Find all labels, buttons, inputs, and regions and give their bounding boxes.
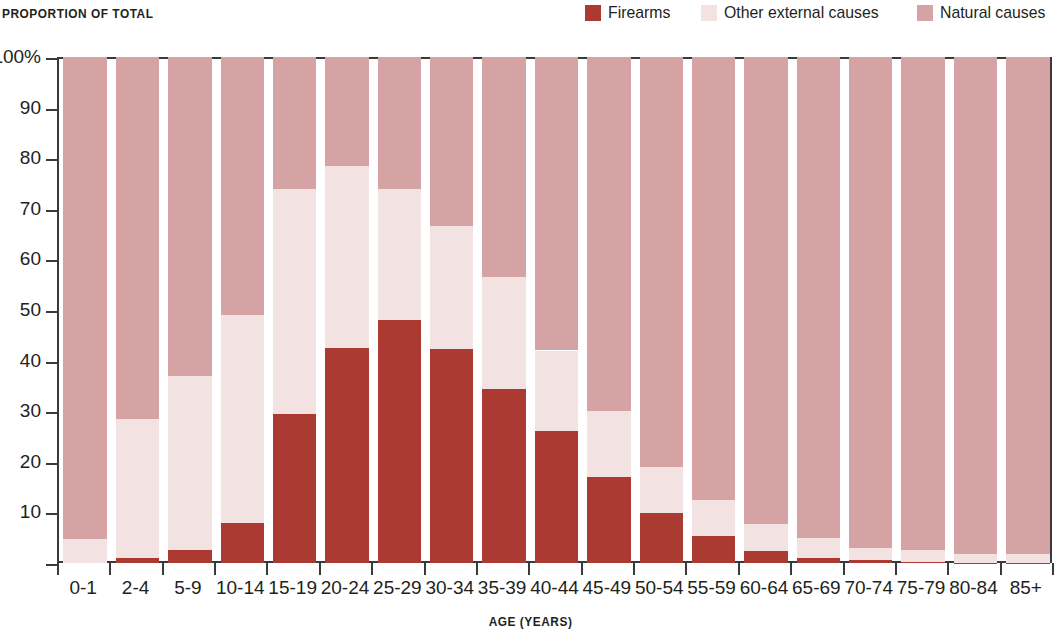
bar-column[interactable] <box>744 59 787 563</box>
bar-segment-firearms[interactable] <box>692 536 735 563</box>
x-axis-tick-label: 10-14 <box>216 577 265 599</box>
y-axis-tick <box>46 260 59 262</box>
bar-segment-natural-causes[interactable] <box>1006 57 1049 554</box>
bar-segment-other-external-causes[interactable] <box>1006 554 1049 562</box>
bar-column[interactable] <box>692 59 735 563</box>
bar-column[interactable] <box>901 59 944 563</box>
bar-segment-firearms[interactable] <box>221 523 264 563</box>
bar-segment-natural-causes[interactable] <box>901 57 944 550</box>
x-axis-tick <box>843 563 845 575</box>
bar-segment-natural-causes[interactable] <box>325 57 368 166</box>
bar-segment-firearms[interactable] <box>535 431 578 563</box>
bar-column[interactable] <box>116 59 159 563</box>
x-axis-tick-label: 60-64 <box>740 577 789 599</box>
bar-segment-other-external-causes[interactable] <box>744 524 787 551</box>
bar-column[interactable] <box>797 59 840 563</box>
bar-segment-natural-causes[interactable] <box>221 57 264 315</box>
bar-segment-natural-causes[interactable] <box>378 57 421 189</box>
bar-segment-other-external-causes[interactable] <box>640 467 683 514</box>
bar-column[interactable] <box>430 59 473 563</box>
bar-segment-other-external-causes[interactable] <box>430 226 473 349</box>
bar-segment-other-external-causes[interactable] <box>63 539 106 563</box>
bar-column[interactable] <box>378 59 421 563</box>
bar-segment-other-external-causes[interactable] <box>901 550 944 562</box>
bar-segment-other-external-causes[interactable] <box>221 315 264 522</box>
bar-segment-natural-causes[interactable] <box>692 57 735 500</box>
bar-segment-other-external-causes[interactable] <box>273 189 316 414</box>
bar-segment-natural-causes[interactable] <box>430 57 473 226</box>
bar-segment-firearms[interactable] <box>325 348 368 563</box>
bar-segment-natural-causes[interactable] <box>535 57 578 350</box>
bar-segment-other-external-causes[interactable] <box>954 554 997 563</box>
y-axis-tick-label: 90 <box>20 97 41 119</box>
bar-column[interactable] <box>273 59 316 563</box>
bar-column[interactable] <box>221 59 264 563</box>
x-axis-tick <box>266 563 268 575</box>
bar-segment-firearms[interactable] <box>587 477 630 563</box>
bar-segment-firearms[interactable] <box>430 349 473 563</box>
y-axis-tick-label: 20 <box>20 451 41 473</box>
x-axis-tick-label: 20-24 <box>321 577 370 599</box>
bar-column[interactable] <box>1006 59 1049 563</box>
bar-segment-firearms[interactable] <box>482 389 525 563</box>
bar-column[interactable] <box>63 59 106 563</box>
bar-column[interactable] <box>587 59 630 563</box>
bar-segment-other-external-causes[interactable] <box>378 189 421 321</box>
y-axis-tick <box>46 362 59 364</box>
bar-column[interactable] <box>325 59 368 563</box>
bar-segment-natural-causes[interactable] <box>849 57 892 548</box>
legend-item[interactable]: Firearms <box>585 3 675 23</box>
bar-segment-other-external-causes[interactable] <box>168 376 211 551</box>
x-axis-tick-label: 2-4 <box>122 577 149 599</box>
bar-segment-natural-causes[interactable] <box>168 57 211 376</box>
legend-item-label: Other external causes <box>724 3 879 23</box>
bar-segment-natural-causes[interactable] <box>63 57 106 539</box>
bar-segment-natural-causes[interactable] <box>954 57 997 554</box>
x-axis-tick-label: 5-9 <box>174 577 201 599</box>
y-axis-tick-label: 30 <box>20 400 41 422</box>
bar-column[interactable] <box>954 59 997 563</box>
bar-segment-other-external-causes[interactable] <box>116 419 159 558</box>
bar-column[interactable] <box>168 59 211 563</box>
bar-segment-natural-causes[interactable] <box>587 57 630 411</box>
chart-legend: FirearmsOther external causesNatural cau… <box>585 3 1053 23</box>
x-axis-tick <box>57 563 59 575</box>
x-axis-tick-label: 80-84 <box>949 577 998 599</box>
bar-segment-natural-causes[interactable] <box>273 57 316 189</box>
legend-swatch-natural-icon <box>917 5 933 21</box>
bar-column[interactable] <box>640 59 683 563</box>
bar-segment-other-external-causes[interactable] <box>797 538 840 559</box>
x-axis-tick-label: 40-44 <box>530 577 579 599</box>
bar-series-group <box>59 59 1050 563</box>
bar-segment-firearms[interactable] <box>273 414 316 563</box>
bar-segment-other-external-causes[interactable] <box>849 548 892 560</box>
x-axis-tick <box>738 563 740 575</box>
bar-column[interactable] <box>482 59 525 563</box>
bar-segment-other-external-causes[interactable] <box>587 411 630 477</box>
y-axis-tick <box>46 210 59 212</box>
y-axis-tick-label: 60 <box>20 248 41 270</box>
x-axis-tick-label: 55-59 <box>687 577 736 599</box>
bar-segment-firearms[interactable] <box>744 551 787 563</box>
legend-item[interactable]: Natural causes <box>917 3 1053 23</box>
legend-item[interactable]: Other external causes <box>701 3 890 23</box>
bar-column[interactable] <box>849 59 892 563</box>
bar-segment-natural-causes[interactable] <box>744 57 787 524</box>
bar-segment-firearms[interactable] <box>378 320 421 563</box>
bar-segment-natural-causes[interactable] <box>797 57 840 538</box>
bar-segment-natural-causes[interactable] <box>640 57 683 467</box>
bar-segment-natural-causes[interactable] <box>116 57 159 419</box>
chart-header: PROPORTION OF TOTAL FirearmsOther extern… <box>0 0 1061 36</box>
x-axis-tick <box>1000 563 1002 575</box>
bar-segment-other-external-causes[interactable] <box>482 277 525 389</box>
x-axis-tick-label: 45-49 <box>583 577 632 599</box>
bar-segment-other-external-causes[interactable] <box>692 500 735 536</box>
x-axis-tick <box>581 563 583 575</box>
bar-segment-other-external-causes[interactable] <box>535 351 578 432</box>
bar-segment-firearms[interactable] <box>640 513 683 563</box>
y-axis-tick <box>46 58 59 60</box>
bar-column[interactable] <box>535 59 578 563</box>
bar-segment-firearms[interactable] <box>168 550 211 563</box>
bar-segment-other-external-causes[interactable] <box>325 166 368 348</box>
bar-segment-natural-causes[interactable] <box>482 57 525 277</box>
